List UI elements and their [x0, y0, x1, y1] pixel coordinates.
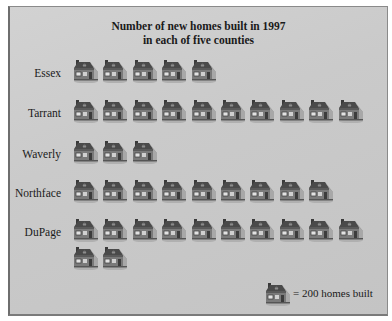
house-icon	[337, 218, 364, 242]
row-label-waverly: Waverly	[22, 148, 61, 160]
row-label-northface: Northface	[15, 187, 61, 199]
house-icon	[131, 218, 158, 242]
house-icon	[160, 218, 187, 242]
row-label-essex: Essex	[34, 67, 61, 79]
house-icon	[72, 59, 99, 83]
house-icon	[160, 99, 187, 123]
house-icon	[264, 282, 291, 306]
house-icon	[131, 59, 158, 83]
house-icon	[307, 218, 334, 242]
house-icon	[248, 218, 275, 242]
chart-title-line2: in each of five counties	[10, 33, 387, 47]
legend-text: = 200 homes built	[293, 287, 373, 299]
house-icon	[337, 99, 364, 123]
house-icon	[160, 179, 187, 203]
house-icon	[131, 140, 158, 164]
house-icon	[160, 59, 187, 83]
house-icon	[72, 140, 99, 164]
house-icon	[190, 218, 217, 242]
house-icon	[101, 140, 128, 164]
house-icon	[248, 179, 275, 203]
house-icon	[190, 179, 217, 203]
chart-title: Number of new homes built in 1997 in eac…	[10, 19, 387, 47]
pictograph-panel: Number of new homes built in 1997 in eac…	[8, 6, 388, 316]
house-icon	[278, 218, 305, 242]
house-icon	[72, 179, 99, 203]
house-icon	[219, 218, 246, 242]
house-icon	[101, 179, 128, 203]
house-icon	[219, 179, 246, 203]
house-icon	[101, 246, 128, 270]
house-icon	[190, 59, 217, 83]
house-icon	[101, 218, 128, 242]
house-icon	[101, 59, 128, 83]
house-icon	[248, 99, 275, 123]
house-icon	[278, 179, 305, 203]
house-icon	[131, 99, 158, 123]
house-icon	[72, 218, 99, 242]
house-icon	[72, 99, 99, 123]
house-icon	[101, 99, 128, 123]
house-icon	[131, 179, 158, 203]
house-icon	[219, 99, 246, 123]
row-label-dupage: DuPage	[25, 226, 61, 238]
chart-title-line1: Number of new homes built in 1997	[10, 19, 387, 33]
house-icon	[307, 99, 334, 123]
row-label-tarrant: Tarrant	[28, 107, 61, 119]
house-icon	[278, 99, 305, 123]
house-icon	[307, 179, 334, 203]
house-icon	[72, 246, 99, 270]
house-icon	[190, 99, 217, 123]
